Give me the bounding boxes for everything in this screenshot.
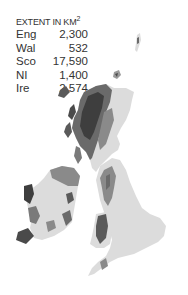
uk-ireland-map bbox=[0, 0, 188, 295]
ireland bbox=[16, 166, 80, 244]
shetland-islands bbox=[135, 33, 141, 52]
scotland bbox=[58, 84, 134, 172]
orkney-islands bbox=[113, 70, 121, 79]
